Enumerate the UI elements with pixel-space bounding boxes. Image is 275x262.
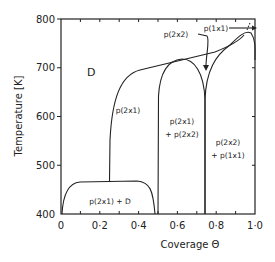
y-tick-500: 500 (36, 160, 55, 171)
phase-diagram: 0 0·2 0·4 0·6 0·8 1·0 400 500 600 700 80… (0, 0, 275, 262)
x-tick-0.6: 0·6 (169, 220, 185, 231)
x-axis-label: Coverage Θ (161, 239, 220, 250)
label-p2x1-p2x2-a: p(2x1) (170, 117, 195, 126)
label-p2x1: p(2x1) (116, 106, 141, 115)
y-tick-400: 400 (36, 209, 55, 220)
dome-p2x2-p1x1 (205, 32, 255, 214)
label-p2x1-p2x2-b: + p(2x2) (165, 130, 198, 139)
label-D: D (87, 66, 95, 79)
x-tick-0.8: 0·8 (208, 220, 224, 231)
label-p2x1-D: p(2x1) + D (89, 197, 131, 206)
phase-boundaries (62, 23, 255, 214)
label-p2x2-p1x1-a: p(2x2) (216, 138, 241, 147)
y-tick-600: 600 (36, 111, 55, 122)
y-axis-label: Temperature [K] (13, 75, 24, 157)
dashed-tick (247, 23, 250, 30)
label-p2x2-p1x1-b: + p(1x1) (211, 151, 244, 160)
arrow-p2x2 (198, 34, 208, 66)
x-tick-1.0: 1·0 (247, 220, 263, 231)
y-tick-700: 700 (36, 62, 55, 73)
y-tick-800: 800 (36, 14, 55, 25)
arrowhead-p2x2 (203, 65, 209, 71)
x-tick-0.2: 0·2 (92, 220, 108, 231)
x-tick-0.4: 0·4 (131, 220, 147, 231)
label-p1x1-arrow: p(1x1) (204, 24, 229, 33)
label-p2x2-arrow: p(2x2) (164, 30, 189, 39)
x-tick-0: 0 (58, 220, 64, 231)
